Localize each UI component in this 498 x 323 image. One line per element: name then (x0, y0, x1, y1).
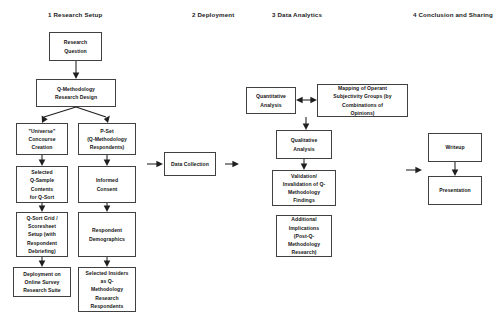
node-selected-insiders[interactable]: Selected Insidersas Q-MethodologyResearc… (78, 267, 136, 312)
node-respondent-demographics[interactable]: RespondentDemographics (78, 212, 136, 257)
node-universe-concourse[interactable]: "Universe"ConcourseCreation (16, 123, 68, 155)
node-informed-consent[interactable]: InformedConsent (78, 166, 136, 203)
edge-writeup-to-presentation (452, 162, 459, 176)
node-quantitative-analysis[interactable]: QuantitativeAnalysis (246, 87, 296, 114)
node-quantitative-analysis-label: QuantitativeAnalysis (249, 92, 293, 109)
edge-consent-to-demographics (104, 203, 111, 212)
node-informed-consent-label: InformedConsent (81, 176, 133, 193)
node-presentation[interactable]: Presentation (428, 176, 482, 205)
node-deployment-online-survey[interactable]: Deployment onOnline SurveyResearch Suite (13, 267, 71, 297)
node-mapping-operant-subjectivity[interactable]: Mapping of OperantSubjectivity Groups (b… (317, 84, 408, 117)
node-data-collection[interactable]: Data Collection (164, 152, 216, 176)
edge-qsample-to-qsortgrid (39, 203, 46, 212)
node-additional-implications-label: AdditionalImplications(Post-Q-Methodolog… (279, 215, 329, 256)
node-q-sort-grid[interactable]: Q-Sort Grid /ScoresheetSetup (withRespon… (16, 212, 68, 257)
phase-heading-research-setup: 1 Research Setup (48, 12, 102, 18)
edge-data-collection-to-analytics (225, 161, 239, 168)
edge-analytics-to-conclusion (406, 167, 422, 174)
node-mapping-operant-subjectivity-label: Mapping of OperantSubjectivity Groups (b… (320, 84, 405, 117)
node-q-sort-grid-label: Q-Sort Grid /ScoresheetSetup (withRespon… (19, 214, 65, 255)
node-presentation-label: Presentation (431, 186, 479, 194)
node-research-question-label: ResearchQuestion (52, 38, 99, 55)
node-p-set[interactable]: P-Set(Q-MethodologyRespondents) (78, 123, 136, 155)
edge-universe-to-qsample (39, 155, 46, 166)
node-validation-invalidation-label: Validation/Invalidation of Q-Methodology… (275, 172, 333, 205)
node-writeup[interactable]: Writeup (428, 133, 482, 162)
node-research-design[interactable]: Q-MethodologyResearch Design (36, 79, 116, 107)
node-writeup-label: Writeup (431, 143, 479, 151)
node-universe-concourse-label: "Universe"ConcourseCreation (19, 127, 65, 152)
edge-design-to-universe (42, 107, 76, 123)
node-data-collection-label: Data Collection (167, 160, 213, 168)
node-q-sample[interactable]: SelectedQ-SampleContentsfor Q-Sort (16, 166, 68, 203)
node-deployment-online-survey-label: Deployment onOnline SurveyResearch Suite (16, 270, 68, 295)
node-additional-implications[interactable]: AdditionalImplications(Post-Q-Methodolog… (276, 215, 332, 257)
edge-qualitative-to-validation (301, 159, 308, 170)
node-p-set-label: P-Set(Q-MethodologyRespondents) (81, 127, 133, 152)
node-research-question[interactable]: ResearchQuestion (49, 32, 102, 61)
phase-heading-data-analytics: 3 Data Analytics (272, 12, 322, 18)
node-respondent-demographics-label: RespondentDemographics (81, 226, 133, 243)
node-q-sample-label: SelectedQ-SampleContentsfor Q-Sort (19, 168, 65, 201)
edge-quantitative-mapping-bidirectional (296, 97, 317, 104)
node-qualitative-analysis-label: QualitativeAnalysis (279, 136, 329, 153)
edge-design-to-pset (76, 107, 110, 123)
node-research-design-label: Q-MethodologyResearch Design (39, 85, 113, 102)
node-qualitative-analysis[interactable]: QualitativeAnalysis (276, 130, 332, 159)
edge-question-to-design (73, 61, 80, 79)
phase-heading-deployment: 2 Deployment (192, 12, 234, 18)
edge-demographics-to-insiders (104, 257, 111, 267)
node-validation-invalidation[interactable]: Validation/Invalidation of Q-Methodology… (272, 170, 336, 206)
edge-quantitative-to-qualitative (303, 117, 310, 130)
edge-qsortgrid-to-deployment (39, 257, 46, 267)
flowchart-canvas: 1 Research Setup 2 Deployment 3 Data Ana… (0, 0, 498, 323)
phase-heading-conclusion-sharing: 4 Conclusion and Sharing (413, 12, 493, 18)
edge-pset-to-consent (104, 155, 111, 166)
node-selected-insiders-label: Selected Insidersas Q-MethodologyResearc… (81, 269, 133, 310)
edge-into-data-collection (147, 161, 163, 168)
